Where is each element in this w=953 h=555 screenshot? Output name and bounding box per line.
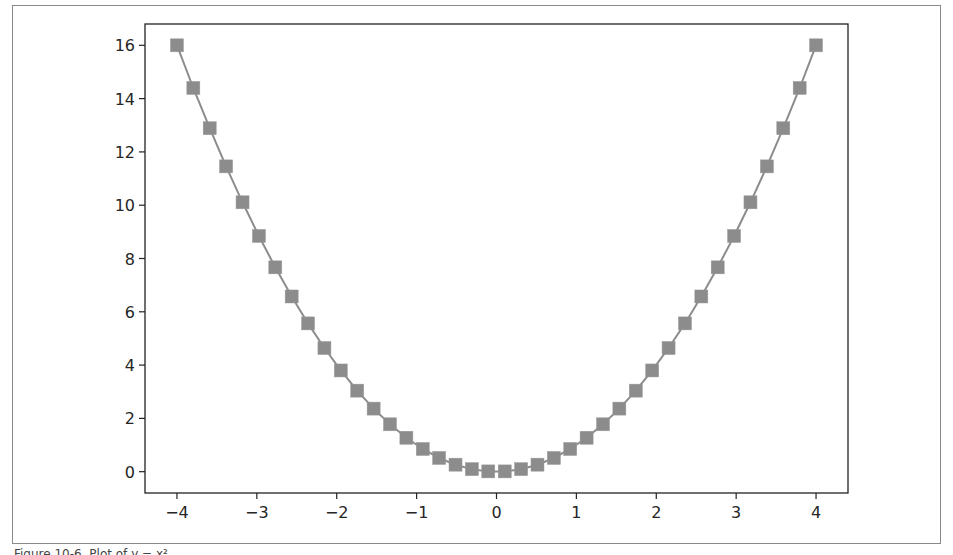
x-tick-label: 1	[571, 503, 581, 522]
square-marker-icon	[646, 364, 659, 377]
square-marker-icon	[285, 290, 298, 303]
square-marker-icon	[384, 418, 397, 431]
square-marker-icon	[187, 81, 200, 94]
square-marker-icon	[728, 229, 741, 242]
square-marker-icon	[547, 451, 560, 464]
square-marker-icon	[203, 122, 216, 135]
y-tick-label: 12	[115, 143, 135, 162]
x-tick-label: 2	[651, 503, 661, 522]
x-tick-label: −1	[405, 503, 429, 522]
square-marker-icon	[482, 465, 495, 478]
square-marker-icon	[465, 463, 478, 476]
square-marker-icon	[744, 196, 757, 209]
y-tick-label: 6	[125, 303, 135, 322]
square-marker-icon	[678, 317, 691, 330]
square-marker-icon	[302, 317, 315, 330]
square-marker-icon	[334, 364, 347, 377]
square-marker-icon	[695, 290, 708, 303]
square-marker-icon	[596, 418, 609, 431]
square-marker-icon	[580, 431, 593, 444]
figure-caption: Figure 10-6. Plot of y = x²	[14, 547, 168, 555]
square-marker-icon	[793, 81, 806, 94]
y-tick-label: 8	[125, 250, 135, 269]
square-marker-icon	[367, 402, 380, 415]
square-marker-icon	[252, 229, 265, 242]
y-tick-label: 4	[125, 356, 135, 375]
x-tick-label: −2	[325, 503, 349, 522]
square-marker-icon	[318, 342, 331, 355]
square-marker-icon	[613, 402, 626, 415]
square-marker-icon	[351, 384, 364, 397]
square-marker-icon	[515, 463, 528, 476]
y-tick-label: 0	[125, 463, 135, 482]
square-marker-icon	[662, 342, 675, 355]
square-marker-icon	[564, 442, 577, 455]
y-tick-label: 10	[115, 196, 135, 215]
x-tick-label: 0	[491, 503, 501, 522]
x-tick-label: 4	[811, 503, 821, 522]
square-marker-icon	[810, 39, 823, 52]
square-marker-icon	[711, 261, 724, 274]
square-marker-icon	[777, 122, 790, 135]
square-marker-icon	[269, 261, 282, 274]
x-tick-label: −4	[165, 503, 189, 522]
y-axis: 0246810121416	[115, 36, 145, 481]
plot-area	[145, 24, 848, 493]
square-marker-icon	[629, 384, 642, 397]
y-tick-label: 2	[125, 409, 135, 428]
chart: −4−3−2−101234 0246810121416	[0, 0, 953, 555]
y-tick-label: 16	[115, 36, 135, 55]
square-marker-icon	[236, 196, 249, 209]
x-tick-label: 3	[731, 503, 741, 522]
square-marker-icon	[416, 442, 429, 455]
y-tick-label: 14	[115, 90, 135, 109]
x-axis: −4−3−2−101234	[165, 493, 821, 522]
square-marker-icon	[449, 458, 462, 471]
square-marker-icon	[498, 465, 511, 478]
square-marker-icon	[433, 451, 446, 464]
square-marker-icon	[531, 458, 544, 471]
square-marker-icon	[400, 431, 413, 444]
x-tick-label: −3	[245, 503, 269, 522]
square-marker-icon	[220, 160, 233, 173]
square-marker-icon	[760, 160, 773, 173]
square-marker-icon	[170, 39, 183, 52]
